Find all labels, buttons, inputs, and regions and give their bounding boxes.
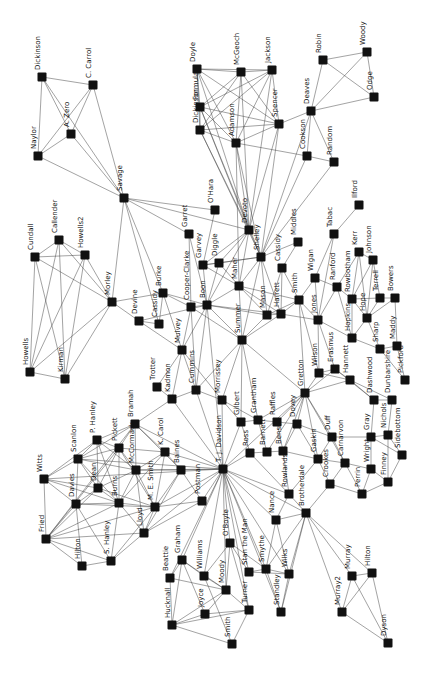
- graph-node: Garret: [181, 205, 194, 239]
- edge: [135, 399, 172, 424]
- node-label: Howells2: [77, 216, 85, 248]
- edge: [204, 543, 230, 576]
- node-square: [348, 334, 357, 343]
- graph-node: Deaves: [303, 78, 316, 116]
- graph-node: Standley: [273, 574, 286, 616]
- edge: [172, 625, 232, 644]
- node-square: [311, 274, 320, 283]
- graph-node: Graham: [174, 525, 187, 565]
- node-square: [201, 610, 210, 619]
- node-square: [388, 396, 397, 405]
- node-square: [341, 459, 350, 468]
- graph-node: Kerr: [351, 231, 364, 257]
- node-square: [31, 253, 40, 262]
- edge: [222, 340, 242, 400]
- edge: [38, 156, 124, 198]
- node-square: [161, 448, 170, 457]
- node-square: [326, 480, 335, 489]
- graph-node: Finney: [380, 452, 393, 486]
- node-label: Duff: [324, 415, 332, 430]
- edge: [249, 124, 279, 230]
- graph-node: Smith: [224, 617, 237, 649]
- node-square: [330, 230, 339, 239]
- node-square: [355, 201, 364, 210]
- node-square: [262, 565, 271, 574]
- graph-node: Joyce: [197, 588, 210, 618]
- node-label: Trotter: [149, 357, 157, 381]
- node-label: Cundall: [27, 224, 35, 250]
- node-label: Devoto: [241, 198, 249, 223]
- node-square: [42, 535, 51, 544]
- graph-node: Erasmus: [327, 332, 340, 374]
- node-square: [89, 81, 98, 90]
- node-square: [192, 386, 201, 395]
- edge: [205, 610, 249, 614]
- node-label: Tabac: [326, 207, 334, 228]
- node-label: Smith: [291, 273, 299, 293]
- edge: [249, 70, 272, 230]
- node-square: [391, 294, 400, 303]
- node-square: [94, 484, 103, 493]
- node-square: [26, 368, 35, 377]
- node-label: Perrin: [354, 467, 362, 487]
- node-label: Morrissey: [214, 359, 222, 393]
- node-label: Nance: [268, 491, 276, 513]
- node-square: [370, 396, 379, 405]
- graph-node: Pickford: [397, 345, 410, 384]
- graph-node: Dean: [90, 463, 103, 493]
- node-square: [314, 316, 323, 325]
- node-square: [222, 586, 231, 595]
- node-square: [384, 431, 393, 440]
- edge: [305, 380, 350, 393]
- node-label: Fried: [38, 515, 46, 532]
- graph-node: Wilson: [311, 343, 324, 378]
- node-square: [203, 301, 212, 310]
- node-square: [294, 238, 303, 247]
- node-label: Kerr: [351, 231, 359, 245]
- edge: [241, 340, 242, 422]
- edge: [139, 305, 207, 321]
- graph-node: Devine: [131, 289, 144, 325]
- edge: [182, 305, 207, 350]
- edge: [119, 448, 165, 452]
- graph-node: Morley: [104, 271, 117, 306]
- network-graph: DickinsonC. CarrolA. ZeroNaylorSavageFor…: [0, 0, 427, 680]
- node-label: Deaves: [303, 78, 311, 104]
- node-label: Smythe: [258, 535, 266, 562]
- graph-node: Ranford: [329, 253, 342, 292]
- node-square: [219, 465, 228, 474]
- edge: [297, 393, 305, 424]
- graph-node: Turner: [241, 581, 254, 615]
- node-square: [285, 490, 294, 499]
- graph-node: Beattie: [162, 546, 175, 583]
- node-square: [40, 475, 49, 484]
- node-label: Wright: [363, 439, 371, 462]
- graph-node: Howells2: [77, 216, 90, 259]
- node-label: Jones: [310, 294, 318, 314]
- node-label: Ilford: [351, 180, 359, 198]
- edge: [236, 72, 241, 143]
- node-square: [401, 376, 410, 385]
- node-label: Mulvey: [174, 318, 182, 343]
- graph-node: Wigan: [307, 249, 320, 282]
- node-square: [384, 639, 393, 648]
- node-square: [177, 466, 186, 475]
- node-label: Robin: [315, 33, 323, 53]
- node-label: Maher: [231, 257, 239, 279]
- node-label: Barnett: [259, 419, 267, 445]
- edge: [111, 533, 144, 561]
- edge: [342, 576, 352, 612]
- graph-node: Smith: [291, 273, 304, 305]
- node-square: [74, 455, 83, 464]
- graph-node: McGeoch: [233, 33, 246, 77]
- edge: [172, 560, 182, 625]
- node-square: [81, 251, 90, 260]
- node-label: Bramah: [127, 389, 135, 417]
- node-square: [328, 433, 337, 442]
- graph-node: Crookes: [322, 449, 335, 489]
- node-square: [166, 574, 175, 583]
- node-label: Hope: [359, 293, 367, 311]
- graph-node: Burns: [111, 476, 124, 508]
- node-label: Moody: [218, 560, 226, 583]
- node-square: [398, 451, 407, 460]
